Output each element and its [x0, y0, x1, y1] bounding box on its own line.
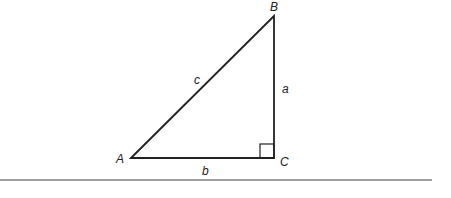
- vertex-label-a: A: [115, 152, 124, 166]
- side-label-b: b: [202, 164, 209, 178]
- triangle-diagram: A B C a b c: [0, 0, 451, 198]
- vertex-label-c: C: [280, 155, 289, 169]
- vertex-label-b: B: [270, 0, 278, 14]
- side-label-c: c: [194, 73, 200, 87]
- right-angle-marker: [260, 144, 274, 158]
- side-label-a: a: [282, 82, 289, 96]
- triangle: [131, 16, 274, 158]
